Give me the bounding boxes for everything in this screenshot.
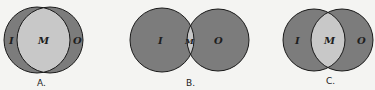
venn-diagram-b: I M O B.	[130, 8, 249, 88]
label-m: M	[184, 36, 195, 46]
label-i: I	[8, 35, 14, 46]
label-o: O	[73, 35, 82, 46]
label-m: M	[37, 35, 50, 46]
caption-c: C.	[326, 76, 335, 86]
venn-diagrams-figure: I M O A. I M O B. I M O C.	[0, 0, 375, 90]
caption-b: B.	[186, 78, 195, 88]
label-i: I	[157, 35, 163, 46]
venn-diagram-c: I M O C.	[283, 9, 373, 86]
venn-diagram-a: I M O A.	[4, 7, 83, 88]
label-o: O	[357, 35, 366, 46]
label-o: O	[214, 35, 223, 46]
label-i: I	[294, 35, 300, 46]
label-m: M	[323, 35, 336, 46]
caption-a: A.	[37, 78, 46, 88]
